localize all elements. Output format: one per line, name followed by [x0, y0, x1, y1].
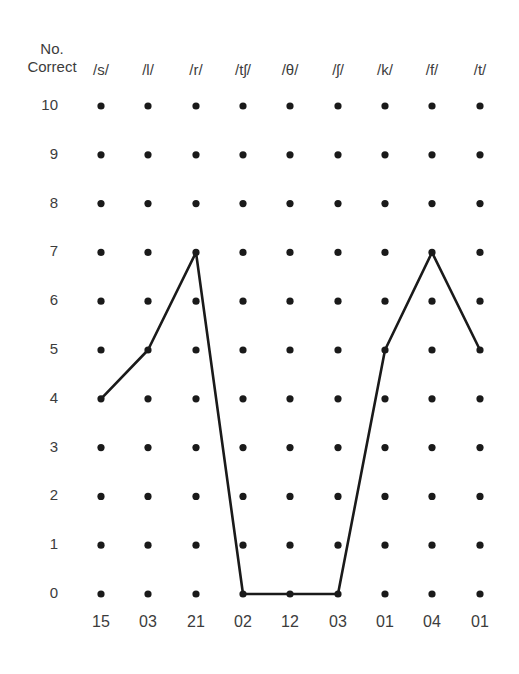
grid-dot: [428, 444, 435, 451]
grid-dot: [192, 298, 199, 305]
grid-dot: [381, 395, 388, 402]
grid-dot: [97, 444, 104, 451]
dot-grid-line-chart: No. Correct /s//l//r//tʃ//θ//ʃ//k//f//t/…: [0, 0, 519, 674]
grid-dot: [286, 200, 293, 207]
grid-dot: [286, 542, 293, 549]
grid-dot: [428, 151, 435, 158]
grid-dot: [144, 151, 151, 158]
grid-dot: [428, 590, 435, 597]
grid-dot: [192, 346, 199, 353]
grid-dot: [239, 444, 246, 451]
grid-dot: [192, 444, 199, 451]
grid-dot: [144, 102, 151, 109]
grid-dot: [286, 395, 293, 402]
grid-dot: [476, 493, 483, 500]
grid-dot: [334, 298, 341, 305]
grid-dot: [97, 346, 104, 353]
grid-dot: [97, 590, 104, 597]
grid-dot: [192, 102, 199, 109]
grid-dot: [476, 200, 483, 207]
grid-dot: [334, 444, 341, 451]
grid-dot: [428, 493, 435, 500]
grid-dot: [476, 444, 483, 451]
grid-dot: [97, 200, 104, 207]
grid-dot: [144, 542, 151, 549]
grid-dot: [476, 102, 483, 109]
grid-dot: [144, 395, 151, 402]
grid-dot: [286, 298, 293, 305]
grid-dot: [239, 542, 246, 549]
grid-dot: [381, 590, 388, 597]
grid-dot: [476, 590, 483, 597]
grid-dot: [192, 200, 199, 207]
grid-dot: [239, 346, 246, 353]
grid-dot: [97, 542, 104, 549]
grid-dot: [334, 395, 341, 402]
grid-dot: [476, 249, 483, 256]
grid-dot: [286, 102, 293, 109]
grid-dot: [476, 542, 483, 549]
grid-dot: [381, 102, 388, 109]
grid-dot: [286, 444, 293, 451]
grid-dot: [381, 493, 388, 500]
grid-dot: [428, 395, 435, 402]
grid-dot: [286, 493, 293, 500]
grid-dot: [239, 151, 246, 158]
grid-dot: [286, 249, 293, 256]
grid-dot: [239, 200, 246, 207]
plot-area: [0, 0, 519, 674]
grid-dot: [144, 200, 151, 207]
grid-dot: [144, 249, 151, 256]
grid-dot: [239, 102, 246, 109]
grid-dot: [334, 542, 341, 549]
grid-dot: [97, 102, 104, 109]
grid-dot: [334, 102, 341, 109]
grid-dot: [239, 395, 246, 402]
grid-dot: [144, 298, 151, 305]
grid-dot: [286, 346, 293, 353]
grid-dot: [476, 298, 483, 305]
grid-dot: [192, 395, 199, 402]
grid-dot: [381, 151, 388, 158]
grid-dot: [97, 298, 104, 305]
grid-dot: [381, 542, 388, 549]
grid-dot: [476, 151, 483, 158]
grid-dot: [239, 298, 246, 305]
grid-dot: [428, 346, 435, 353]
grid-dot: [428, 102, 435, 109]
grid-dot: [97, 249, 104, 256]
grid-dot: [381, 249, 388, 256]
grid-dot: [381, 200, 388, 207]
grid-dot: [334, 200, 341, 207]
grid-dot: [144, 444, 151, 451]
grid-dot: [476, 395, 483, 402]
grid-dot: [334, 249, 341, 256]
grid-dot: [428, 200, 435, 207]
grid-dot: [428, 298, 435, 305]
grid-dot: [97, 151, 104, 158]
grid-dot: [192, 542, 199, 549]
grid-dot: [334, 493, 341, 500]
grid-dot: [97, 493, 104, 500]
grid-dot: [239, 249, 246, 256]
grid-dot: [239, 493, 246, 500]
grid-dot: [286, 151, 293, 158]
grid-dot: [144, 493, 151, 500]
grid-dot: [192, 493, 199, 500]
grid-dot: [334, 346, 341, 353]
grid-dot: [381, 298, 388, 305]
grid-dot: [192, 151, 199, 158]
grid-dot: [334, 151, 341, 158]
grid-dot: [381, 444, 388, 451]
grid-dot: [428, 542, 435, 549]
grid-dot: [144, 590, 151, 597]
grid-dot: [192, 590, 199, 597]
